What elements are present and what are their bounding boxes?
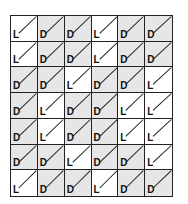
grid-cell: D (118, 42, 145, 68)
grid-cell: D (118, 170, 145, 196)
cell-label: L (13, 55, 19, 65)
grid-cell: D (118, 67, 145, 93)
grid-cell: L (118, 93, 145, 119)
grid-cell: D (38, 170, 65, 196)
grid-cell: D (65, 16, 92, 42)
cell-label: L (120, 133, 126, 143)
cell-label: D (13, 107, 20, 117)
cell-label: D (120, 30, 127, 40)
grid-cell: D (11, 93, 38, 119)
grid-cell: D (65, 170, 92, 196)
grid-cell: D (38, 145, 65, 171)
cell-label: L (67, 81, 73, 91)
cell-label: D (94, 107, 101, 117)
cell-label: D (40, 81, 47, 91)
grid-cell: D (38, 67, 65, 93)
grid-cell: D (65, 119, 92, 145)
grid-cell: D (65, 93, 92, 119)
cell-label: D (147, 185, 154, 195)
grid-cell: L (38, 93, 65, 119)
grid-cell: D (65, 42, 92, 68)
grid-cell: L (145, 145, 172, 171)
cell-label: L (147, 158, 153, 168)
cell-label: D (147, 55, 154, 65)
grid-cell: L (38, 119, 65, 145)
cell-label: D (67, 133, 74, 143)
grid-cell: D (11, 145, 38, 171)
cell-label: D (94, 158, 101, 168)
cell-label: L (94, 55, 100, 65)
grid-cell: D (11, 67, 38, 93)
cell-label: D (40, 158, 47, 168)
grid-cell: L (92, 42, 119, 68)
grid-cell: L (11, 16, 38, 42)
cell-label: D (67, 107, 74, 117)
cell-label: L (13, 30, 19, 40)
cell-label: D (120, 81, 127, 91)
cell-label: D (94, 81, 101, 91)
cell-label: D (40, 30, 47, 40)
grid-cell: D (38, 42, 65, 68)
cell-label: D (13, 81, 20, 91)
cell-label: L (67, 158, 73, 168)
cell-label: D (120, 55, 127, 65)
grid-cell: L (145, 67, 172, 93)
cell-label: D (40, 55, 47, 65)
grid-cell: D (11, 119, 38, 145)
cell-label: L (147, 133, 153, 143)
grid-cell: D (145, 170, 172, 196)
grid-cell: L (11, 170, 38, 196)
cell-label: D (120, 158, 127, 168)
cell-label: L (94, 30, 100, 40)
cell-label: L (40, 107, 46, 117)
grid-cell: D (92, 67, 119, 93)
grid-cell: L (145, 93, 172, 119)
grid-cell: L (11, 42, 38, 68)
grid-cell: L (92, 170, 119, 196)
cell-label: L (40, 133, 46, 143)
cell-label: D (67, 55, 74, 65)
cell-label: D (67, 185, 74, 195)
cell-label: L (120, 107, 126, 117)
cell-label: D (13, 133, 20, 143)
grid-cell: D (118, 16, 145, 42)
grid-cell: D (145, 16, 172, 42)
cell-label: D (94, 133, 101, 143)
cell-label: D (120, 185, 127, 195)
cell-label: L (13, 185, 19, 195)
cell-label: L (147, 107, 153, 117)
grid-cell: D (92, 145, 119, 171)
grid-cell: L (65, 67, 92, 93)
grid-cell: D (92, 93, 119, 119)
cell-label: L (94, 185, 100, 195)
cell-label: D (40, 185, 47, 195)
grid-cell: D (145, 42, 172, 68)
grid-cell: D (118, 145, 145, 171)
cell-label: L (147, 81, 153, 91)
cell-label: D (147, 30, 154, 40)
cell-label: D (13, 158, 20, 168)
grid-cell: L (145, 119, 172, 145)
grid-cell: L (92, 16, 119, 42)
grid-cell: L (118, 119, 145, 145)
grid-cell: D (38, 16, 65, 42)
grid-cell: L (65, 145, 92, 171)
cell-grid: LDDLDDLDDLDDDDLDDLDLDDLLDLDDLLDDLDDLLDDL… (10, 15, 173, 197)
grid-cell: D (92, 119, 119, 145)
cell-label: D (67, 30, 74, 40)
